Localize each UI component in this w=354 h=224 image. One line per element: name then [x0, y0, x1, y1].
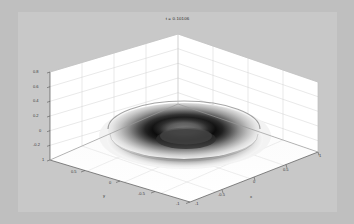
y-tick-label: 0.5	[71, 170, 77, 175]
figure-panel: t = 0.10106	[18, 12, 337, 212]
x-tick-label: 0.5	[283, 168, 289, 173]
y-axis-label: y	[103, 194, 105, 199]
z-tick-label: 0.6	[33, 85, 39, 90]
x-tick-label: -0.5	[218, 193, 225, 198]
y-tick-label: -0.5	[138, 192, 145, 197]
x-tick-label: 1	[319, 154, 321, 159]
z-tick-label: 0	[39, 129, 41, 134]
z-tick-label: -0.2	[33, 143, 40, 148]
y-tick-label: 1	[42, 158, 44, 163]
axes-3d	[18, 12, 337, 212]
x-axis-label: x	[250, 195, 252, 200]
z-tick-label: 0.4	[33, 99, 39, 104]
z-tick-label: 0.2	[33, 114, 39, 119]
x-tick-label: 0	[253, 180, 255, 185]
z-tick-label: 0.8	[33, 70, 39, 75]
y-tick-label: 0	[109, 181, 111, 186]
x-tick-label: -1	[195, 202, 199, 207]
y-tick-label: -1	[176, 202, 180, 207]
